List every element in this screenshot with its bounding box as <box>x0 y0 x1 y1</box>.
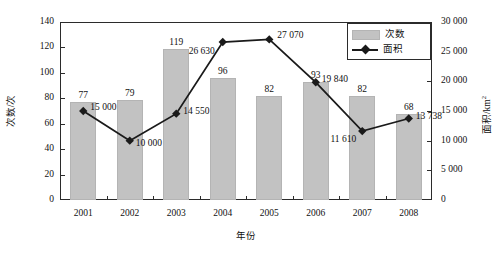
y-axis-left-tick-label: 0 <box>22 195 54 205</box>
bar-value-label: 82 <box>265 84 275 94</box>
y-axis-right-title-exponent: 2 <box>480 96 487 99</box>
x-axis-tick-label: 2004 <box>213 209 232 219</box>
legend-item-bar[interactable]: 次数 <box>352 27 426 42</box>
x-axis-tick-mark <box>339 196 340 200</box>
bar-column[interactable] <box>70 102 96 200</box>
y-axis-right-title-text: 面积/km <box>482 99 492 134</box>
bar-column[interactable] <box>163 49 189 200</box>
y-axis-right-tick-label: 25 000 <box>441 47 467 57</box>
legend-item-label: 面积 <box>383 45 403 55</box>
y-axis-left-tick-mark <box>60 73 65 74</box>
y-axis-left-tick-label: 40 <box>22 144 54 154</box>
line-point-value-label: 26 630 <box>189 46 215 56</box>
x-axis-tick-mark <box>293 196 294 200</box>
chart-legend: 次数 面积 <box>347 23 431 60</box>
bar-value-label: 82 <box>358 84 368 94</box>
y-axis-left-tick-label: 20 <box>22 170 54 180</box>
line-point-value-label: 13 738 <box>416 111 442 121</box>
y-axis-left-tick-label: 60 <box>22 119 54 129</box>
x-axis-tick-mark <box>386 196 387 200</box>
y-axis-right-tick-mark <box>427 81 432 82</box>
y-axis-left-tick-mark <box>60 175 65 176</box>
bar-column[interactable] <box>303 82 329 200</box>
y-axis-right-tick-label: 20 000 <box>441 77 467 87</box>
line-point-value-label: 14 550 <box>183 106 209 116</box>
y-axis-left-title: 次数/次 <box>3 95 17 128</box>
bar-column[interactable] <box>210 78 236 200</box>
bar-value-label: 77 <box>79 90 89 100</box>
x-axis-tick-label: 2006 <box>306 209 325 219</box>
x-axis-tick-label: 2007 <box>353 209 372 219</box>
y-axis-left-tick-mark <box>60 22 65 23</box>
y-axis-right-tick-label: 0 <box>441 195 446 205</box>
legend-item-label: 次数 <box>385 30 405 40</box>
y-axis-right-tick-label: 5 000 <box>441 166 462 176</box>
x-axis-tick-label: 2003 <box>167 209 186 219</box>
y-axis-left-tick-mark <box>60 149 65 150</box>
bar-value-label: 68 <box>404 102 414 112</box>
line-point-value-label: 27 070 <box>277 30 303 40</box>
chart-container: 02040608010012014005 00010 00015 00020 0… <box>0 0 504 256</box>
bar-column[interactable] <box>396 114 422 200</box>
line-point-value-label: 19 840 <box>322 74 348 84</box>
bar-column[interactable] <box>349 96 375 200</box>
y-axis-right-tick-label: 10 000 <box>441 136 467 146</box>
legend-line-swatch-icon <box>352 46 378 54</box>
line-point-value-label: 10 000 <box>136 138 162 148</box>
y-axis-right-tick-label: 30 000 <box>441 17 467 27</box>
x-axis-tick-mark <box>153 196 154 200</box>
line-point-value-label: 15 000 <box>90 102 116 112</box>
x-axis-tick-mark <box>107 196 108 200</box>
y-axis-left-tick-mark <box>60 98 65 99</box>
y-axis-left-tick-mark <box>60 47 65 48</box>
y-axis-right-tick-mark <box>427 170 432 171</box>
x-axis-tick-label: 2005 <box>260 209 279 219</box>
y-axis-left-tick-label: 80 <box>22 94 54 104</box>
x-axis-tick-mark <box>200 196 201 200</box>
bar-value-label: 96 <box>218 66 228 76</box>
bar-value-label: 119 <box>169 37 183 47</box>
y-axis-left-tick-mark <box>60 124 65 125</box>
x-axis-tick-mark <box>246 196 247 200</box>
y-axis-right-tick-label: 15 000 <box>441 106 467 116</box>
y-axis-right-tick-mark <box>427 141 432 142</box>
legend-bar-swatch-icon <box>352 30 380 40</box>
bar-column[interactable] <box>256 96 282 200</box>
bar-value-label: 93 <box>311 70 321 80</box>
bar-value-label: 79 <box>125 88 135 98</box>
y-axis-left-tick-label: 100 <box>22 68 54 78</box>
line-point-value-label: 11 610 <box>330 134 356 144</box>
y-axis-left-tick-label: 140 <box>22 17 54 27</box>
x-axis-tick-label: 2008 <box>399 209 418 219</box>
x-axis-title: 年份 <box>236 228 256 242</box>
x-axis-tick-label: 2002 <box>120 209 139 219</box>
legend-item-line[interactable]: 面积 <box>352 42 426 57</box>
y-axis-right-title: 面积/km2 <box>479 96 493 134</box>
y-axis-left-tick-label: 120 <box>22 43 54 53</box>
legend-diamond-marker-icon <box>361 45 371 55</box>
bar-column[interactable] <box>117 100 143 200</box>
x-axis-tick-label: 2001 <box>74 209 93 219</box>
